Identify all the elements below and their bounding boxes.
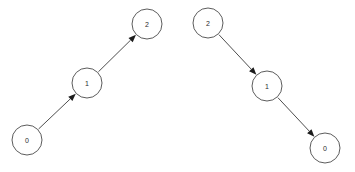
edge-line bbox=[39, 99, 71, 129]
diagram-canvas: 012210 bbox=[0, 0, 355, 172]
graph-node[interactable]: 0 bbox=[310, 133, 340, 163]
graph-node[interactable]: 0 bbox=[12, 125, 42, 155]
edge-line bbox=[219, 35, 251, 70]
node-label: 1 bbox=[265, 83, 269, 90]
node-label: 2 bbox=[206, 20, 210, 27]
graph-node[interactable]: 1 bbox=[252, 71, 282, 101]
graph-node[interactable]: 2 bbox=[132, 9, 162, 39]
graph-node[interactable]: 2 bbox=[193, 8, 223, 38]
directed-graph-pair: 012210 bbox=[0, 0, 355, 172]
edge-line bbox=[98, 40, 130, 72]
node-label: 1 bbox=[85, 80, 89, 87]
node-label: 2 bbox=[145, 21, 149, 28]
edge-line bbox=[278, 98, 309, 132]
node-label: 0 bbox=[323, 145, 327, 152]
graph-node[interactable]: 1 bbox=[72, 68, 102, 98]
node-label: 0 bbox=[25, 137, 29, 144]
nodes-layer: 012210 bbox=[12, 8, 340, 163]
